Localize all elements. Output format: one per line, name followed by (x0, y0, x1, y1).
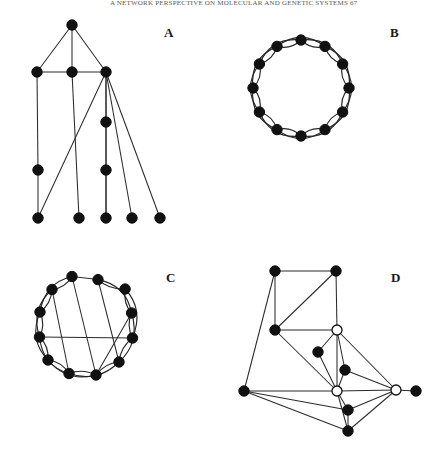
panel-d-graph (239, 266, 421, 436)
graph-node (313, 347, 323, 357)
graph-node (101, 117, 111, 127)
graph-node (93, 274, 103, 284)
graph-node (270, 266, 280, 276)
graph-edge (72, 25, 106, 72)
graph-node (337, 107, 347, 117)
graph-node-open (391, 385, 401, 395)
graph-node (101, 165, 111, 175)
graph-edge (244, 391, 348, 431)
four-panel-network-figure (0, 0, 438, 451)
graph-node (67, 67, 77, 77)
graph-node (343, 426, 353, 436)
graph-node-open (332, 325, 342, 335)
panel-label-b: B (390, 25, 399, 41)
panel-b-graph (248, 35, 354, 141)
graph-edge (38, 72, 106, 218)
graph-edge (72, 72, 79, 218)
graph-edge (337, 330, 396, 390)
graph-edge (106, 72, 160, 218)
graph-node (34, 332, 44, 342)
graph-edge (98, 280, 119, 362)
graph-node (343, 405, 353, 415)
graph-node (272, 124, 282, 134)
graph-node (270, 325, 280, 335)
graph-node (126, 308, 136, 318)
graph-node (254, 59, 264, 69)
graph-node (344, 83, 354, 93)
graph-edge (37, 25, 72, 72)
graph-edge (37, 72, 38, 170)
graph-edge (337, 330, 345, 370)
graph-node (101, 67, 111, 77)
graph-node (239, 386, 249, 396)
graph-edge (106, 72, 132, 218)
graph-node (43, 355, 53, 365)
graph-node (47, 284, 57, 294)
panel-label-d: D (391, 270, 400, 286)
graph-node (296, 131, 306, 141)
graph-node (248, 83, 258, 93)
graph-node (120, 284, 130, 294)
panel-c-graph (34, 271, 137, 380)
panel-label-a: A (164, 25, 173, 41)
graph-node (33, 165, 43, 175)
graph-node (67, 20, 77, 30)
graph-node (320, 41, 330, 51)
graph-node (101, 213, 111, 223)
graph-edge (337, 390, 396, 391)
graph-edge (336, 271, 337, 330)
graph-node (296, 35, 306, 45)
graph-edge (348, 390, 396, 410)
graph-node (320, 124, 330, 134)
graph-edge (345, 370, 396, 390)
graph-edge (275, 271, 336, 330)
graph-node (35, 307, 45, 317)
graph-node (67, 271, 77, 281)
graph-edge (318, 352, 337, 391)
graph-edge (52, 290, 69, 374)
graph-edge (348, 390, 396, 431)
panel-label-c: C (166, 270, 175, 286)
graph-node (155, 213, 165, 223)
graph-edge (40, 337, 133, 338)
graph-node (33, 213, 43, 223)
graph-node (337, 59, 347, 69)
graph-node (340, 365, 350, 375)
graph-node (64, 368, 74, 378)
graph-node (114, 357, 124, 367)
graph-node (74, 213, 84, 223)
graph-node (127, 213, 137, 223)
graph-node (272, 41, 282, 51)
graph-node (91, 370, 101, 380)
graph-node (32, 67, 42, 77)
graph-edge (275, 330, 337, 391)
graph-node (254, 107, 264, 117)
graph-node-open (332, 386, 342, 396)
graph-edge (72, 277, 96, 376)
panel-a-graph (32, 20, 165, 223)
graph-node (127, 333, 137, 343)
graph-node (411, 386, 421, 396)
graph-node (331, 266, 341, 276)
